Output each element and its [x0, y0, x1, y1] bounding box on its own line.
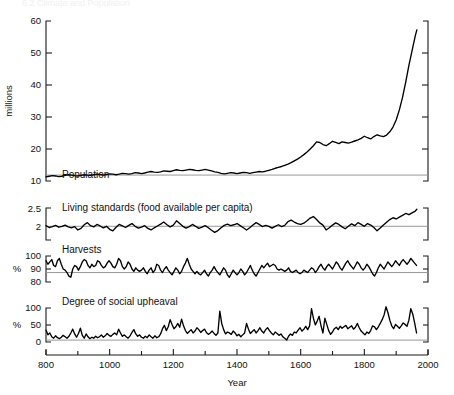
x-axis-tick-label-1600: 1600: [290, 359, 311, 370]
multi-panel-time-series-chart: 6.2 Climate and Population 60 50 40 30 2…: [0, 0, 454, 395]
population-ytick-40: 40: [30, 79, 41, 90]
population-y-axis: [46, 21, 428, 181]
harvests-data-line: [46, 258, 417, 277]
population-right-axis-bracket: [423, 21, 428, 181]
x-axis-tick-label-1200: 1200: [163, 359, 184, 370]
social-upheaval-ytick-0: 0: [36, 336, 41, 347]
harvests-series-label: Harvests: [62, 244, 101, 255]
living-standards-y-tick-labels: 2.5 2: [28, 203, 41, 232]
living-standards-left-axis-bracket: [46, 208, 51, 240]
population-ytick-10: 10: [30, 175, 41, 186]
x-axis-ticks: [46, 349, 428, 355]
living-standards-series-label: Living standards (food available per cap…: [62, 202, 253, 213]
panel-harvests: 100 90 80 % Harvests: [13, 244, 428, 287]
social-upheaval-ytick-100: 100: [25, 302, 41, 313]
population-ytick-50: 50: [30, 47, 41, 58]
social-upheaval-ytick-50: 50: [30, 319, 41, 330]
population-ytick-20: 20: [30, 143, 41, 154]
population-y-ticks: [46, 53, 428, 149]
living-standards-ytick-2point5: 2.5: [28, 203, 41, 214]
panel-population: 60 50 40 30 20 10 millions Population: [3, 15, 428, 186]
panel-social-upheaval: 100 50 0 % Degree of social upheaval: [13, 296, 428, 347]
harvests-axis-title: %: [13, 263, 22, 274]
figure-container: 6.2 Climate and Population 60 50 40 30 2…: [0, 0, 454, 395]
x-axis-tick-label-1000: 1000: [99, 359, 120, 370]
population-ytick-60: 60: [30, 15, 41, 26]
social-upheaval-series-label: Degree of social upheaval: [62, 296, 178, 307]
living-standards-ytick-2: 2: [36, 221, 41, 232]
population-ytick-30: 30: [30, 111, 41, 122]
living-standards-right-axis-bracket: [423, 208, 428, 240]
social-upheaval-y-tick-labels: 100 50 0: [25, 302, 41, 347]
population-data-line: [46, 30, 417, 177]
x-axis-tick-label-1400: 1400: [226, 359, 247, 370]
harvests-ytick-80: 80: [30, 276, 41, 287]
harvests-ytick-100: 100: [25, 250, 41, 261]
population-y-tick-labels: 60 50 40 30 20 10: [30, 15, 41, 186]
x-axis-tick-label-800: 800: [38, 359, 54, 370]
population-axis-title: millions: [3, 85, 14, 117]
x-axis-tick-labels: 800100012001400160018002000: [38, 359, 439, 370]
x-axis-tick-label-2000: 2000: [417, 359, 438, 370]
cutoff-header-text: 6.2 Climate and Population: [22, 0, 130, 8]
x-axis: 800100012001400160018002000 Year: [38, 349, 439, 388]
social-upheaval-data-line: [46, 307, 417, 340]
x-axis-tick-label-1800: 1800: [354, 359, 375, 370]
harvests-y-tick-labels: 100 90 80: [25, 250, 41, 287]
x-axis-title: Year: [227, 377, 246, 388]
population-series-label: Population: [62, 169, 109, 180]
harvests-ytick-90: 90: [30, 263, 41, 274]
population-left-axis-bracket: [46, 21, 51, 181]
social-upheaval-axis-title: %: [13, 319, 22, 330]
panel-living-standards: 2.5 2 Living standards (food available p…: [28, 202, 428, 240]
